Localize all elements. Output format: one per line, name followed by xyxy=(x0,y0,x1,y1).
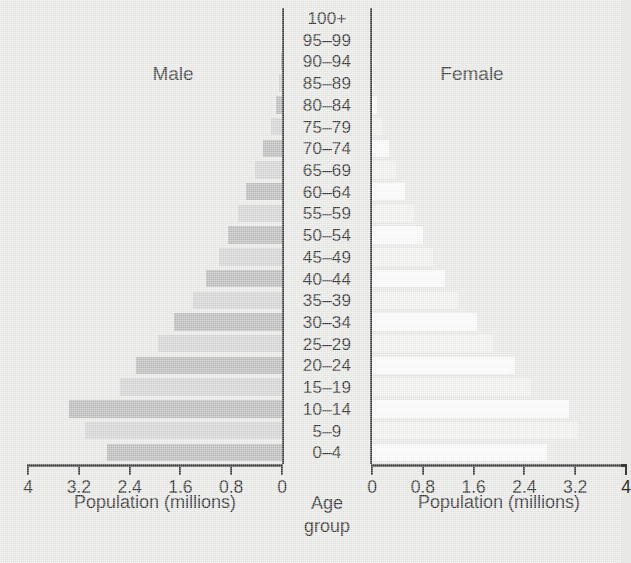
female-bar-row xyxy=(372,290,626,312)
male-value-axis: 00.81.62.43.24 xyxy=(28,464,282,478)
female-axis-tick xyxy=(473,464,475,475)
male-bar-row xyxy=(28,182,282,204)
male-bar-row xyxy=(28,225,282,247)
male-bar-row xyxy=(28,8,282,30)
male-bar-row xyxy=(28,95,282,117)
female-bar-row xyxy=(372,51,626,73)
age-group-label: 35–39 xyxy=(284,290,370,312)
age-group-label: 25–29 xyxy=(284,334,370,356)
female-bar-row xyxy=(372,421,626,443)
female-bar-row xyxy=(372,160,626,182)
male-bar xyxy=(271,118,282,135)
male-axis-title: Population (millions) xyxy=(28,492,282,513)
female-bar xyxy=(372,270,445,287)
female-bar xyxy=(372,96,377,113)
female-bar xyxy=(372,226,423,243)
male-axis-tick xyxy=(179,464,181,475)
age-group-label: 30–34 xyxy=(284,312,370,334)
male-axis-line xyxy=(28,464,282,467)
female-bar xyxy=(372,205,414,222)
male-axis-tick xyxy=(78,464,80,475)
female-bar-row xyxy=(372,95,626,117)
male-bar-row xyxy=(28,355,282,377)
age-group-label: 20–24 xyxy=(284,355,370,377)
age-group-label: 70–74 xyxy=(284,138,370,160)
age-group-label: 10–14 xyxy=(284,399,370,421)
male-bar xyxy=(255,161,282,178)
male-bar-row xyxy=(28,73,282,95)
female-value-axis: 00.81.62.43.24 xyxy=(372,464,626,478)
male-bar-row xyxy=(28,290,282,312)
female-axis-tick xyxy=(625,464,627,475)
male-axis-tick xyxy=(281,464,283,475)
female-bar xyxy=(372,292,458,309)
male-bar xyxy=(174,313,282,330)
female-axis-tick xyxy=(523,464,525,475)
male-bar xyxy=(238,205,282,222)
age-group-label: 75–79 xyxy=(284,117,370,139)
male-bar-row xyxy=(28,30,282,52)
age-group-label: 40–44 xyxy=(284,269,370,291)
male-bar-row xyxy=(28,160,282,182)
male-bar xyxy=(263,140,282,157)
male-bar-row xyxy=(28,399,282,421)
male-axis-tick xyxy=(230,464,232,475)
male-bar-row xyxy=(28,51,282,73)
age-group-axis: 100+95–9990–9485–8980–8475–7970–7465–696… xyxy=(282,8,372,464)
female-bar-row xyxy=(372,399,626,421)
age-group-label: 85–89 xyxy=(284,73,370,95)
age-axis-title-line1: Age xyxy=(282,492,372,515)
age-group-label: 80–84 xyxy=(284,95,370,117)
female-bar xyxy=(372,53,373,70)
female-bar-row xyxy=(372,225,626,247)
female-bar-row xyxy=(372,442,626,464)
male-bar xyxy=(69,400,282,417)
female-bar xyxy=(372,400,569,417)
female-axis-title: Population (millions) xyxy=(372,492,626,513)
male-bar xyxy=(107,444,282,461)
female-bar xyxy=(372,335,493,352)
female-bar xyxy=(372,313,477,330)
male-bar-row xyxy=(28,203,282,225)
male-bar-row xyxy=(28,138,282,160)
female-bar xyxy=(372,357,515,374)
male-bars-area xyxy=(28,8,282,464)
age-group-label: 55–59 xyxy=(284,203,370,225)
age-group-label: 15–19 xyxy=(284,377,370,399)
male-bar-row xyxy=(28,117,282,139)
male-bar xyxy=(120,378,282,395)
male-bar xyxy=(206,270,282,287)
age-group-label: 5–9 xyxy=(284,421,370,443)
male-bar-row xyxy=(28,269,282,291)
female-bar xyxy=(372,74,374,91)
male-axis-tick xyxy=(129,464,131,475)
female-bar-row xyxy=(372,377,626,399)
female-axis-tick xyxy=(371,464,373,475)
age-axis-title-line2: group xyxy=(282,515,372,538)
female-bar xyxy=(372,118,382,135)
male-bar-row xyxy=(28,334,282,356)
male-bar xyxy=(158,335,282,352)
age-group-label: 90–94 xyxy=(284,51,370,73)
age-group-label: 60–64 xyxy=(284,182,370,204)
female-bar xyxy=(372,422,578,439)
male-bar-row xyxy=(28,421,282,443)
male-bar xyxy=(85,422,282,439)
female-bar-row xyxy=(372,8,626,30)
age-group-label: 95–99 xyxy=(284,30,370,52)
female-bar-row xyxy=(372,30,626,52)
female-axis-line xyxy=(372,464,626,467)
female-axis-tick xyxy=(422,464,424,475)
female-bar-row xyxy=(372,247,626,269)
male-bar xyxy=(219,248,283,265)
male-bar xyxy=(193,292,282,309)
female-bar-row xyxy=(372,269,626,291)
male-bar-row xyxy=(28,377,282,399)
female-bars-area xyxy=(372,8,626,464)
age-group-label: 100+ xyxy=(284,8,370,30)
female-bar xyxy=(372,248,433,265)
male-bar-row xyxy=(28,312,282,334)
female-bar-row xyxy=(372,73,626,95)
male-bar xyxy=(228,226,282,243)
